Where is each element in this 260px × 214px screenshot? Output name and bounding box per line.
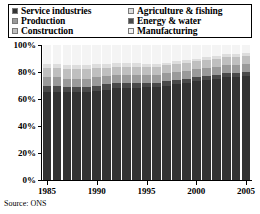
bar-segment bbox=[63, 79, 72, 87]
bar-segment bbox=[222, 45, 231, 54]
bar-segment bbox=[242, 76, 251, 180]
bar-segment bbox=[82, 69, 91, 78]
bar-segment bbox=[53, 86, 62, 93]
bar-segment bbox=[122, 75, 131, 83]
legend-swatch-energy-water bbox=[128, 18, 134, 24]
bar-segment bbox=[72, 92, 81, 180]
bar-segment bbox=[72, 45, 81, 65]
bar-segment bbox=[152, 75, 161, 83]
bar-segment bbox=[112, 88, 121, 180]
legend-label-agriculture-fishing: Agriculture & fishing bbox=[137, 6, 222, 16]
legend-label-production: Production bbox=[21, 16, 65, 26]
bar-segment bbox=[43, 86, 52, 93]
bar-segment bbox=[43, 92, 52, 180]
legend-swatch-manufacturing bbox=[128, 28, 134, 34]
x-axis-label: 2005 bbox=[237, 186, 255, 196]
legend-label-manufacturing: Manufacturing bbox=[137, 26, 197, 36]
chart-legend: Service industries Production Constructi… bbox=[8, 4, 252, 38]
bar-segment bbox=[72, 69, 81, 78]
bar-segment bbox=[92, 68, 101, 77]
bar-column bbox=[82, 45, 91, 180]
y-axis-label: 80% bbox=[18, 67, 36, 77]
bar-segment bbox=[152, 87, 161, 180]
bar-segment bbox=[53, 77, 62, 85]
bar-column bbox=[202, 45, 211, 180]
bar-segment bbox=[102, 76, 111, 84]
bar-column bbox=[242, 45, 251, 180]
bar-segment bbox=[43, 77, 52, 85]
bar-segment bbox=[182, 83, 191, 180]
source-note: Source: ONS bbox=[4, 199, 46, 208]
x-tick-mark bbox=[147, 181, 148, 185]
bar-segment bbox=[142, 75, 151, 83]
bar-segment bbox=[72, 79, 81, 87]
x-tick-mark bbox=[97, 181, 98, 185]
legend-label-construction: Construction bbox=[21, 26, 73, 36]
bar-segment bbox=[112, 45, 121, 63]
bar-segment bbox=[122, 67, 131, 75]
legend-label-service-industries: Service industries bbox=[21, 6, 91, 16]
legend-item-service-industries: Service industries bbox=[12, 6, 128, 16]
bar-segment bbox=[232, 45, 241, 54]
bar-segment bbox=[212, 67, 221, 75]
legend-column-right: Agriculture & fishing Energy & water Man… bbox=[128, 6, 248, 36]
bar-segment bbox=[102, 90, 111, 180]
bar-segment bbox=[162, 65, 171, 73]
y-axis-label: 40% bbox=[18, 121, 36, 131]
x-axis-label: 1995 bbox=[138, 186, 156, 196]
bar-column bbox=[122, 45, 131, 180]
legend-item-manufacturing: Manufacturing bbox=[128, 26, 248, 36]
bar-column bbox=[222, 45, 231, 180]
bar-segment bbox=[152, 67, 161, 75]
bar-segment bbox=[142, 87, 151, 180]
bar-column bbox=[72, 45, 81, 180]
legend-column-left: Service industries Production Constructi… bbox=[12, 6, 128, 36]
bar-segment bbox=[182, 63, 191, 71]
bar-segment bbox=[122, 88, 131, 180]
bar-column bbox=[192, 45, 201, 180]
bar-segment bbox=[82, 45, 91, 65]
legend-label-energy-water: Energy & water bbox=[137, 16, 201, 26]
bar-segment bbox=[202, 60, 211, 68]
bar-segment bbox=[172, 64, 181, 72]
bar-segment bbox=[112, 67, 121, 75]
bar-segment bbox=[202, 80, 211, 180]
bar-segment bbox=[132, 75, 141, 83]
bar-segment bbox=[142, 45, 151, 64]
bar-segment bbox=[182, 71, 191, 79]
bar-column bbox=[142, 45, 151, 180]
bar-segment bbox=[63, 45, 72, 65]
bar-column bbox=[43, 45, 52, 180]
bar-segment bbox=[43, 45, 52, 64]
y-axis-label: 100% bbox=[14, 40, 37, 50]
legend-swatch-agriculture-fishing bbox=[128, 8, 134, 14]
bar-column bbox=[92, 45, 101, 180]
bar-segment bbox=[192, 69, 201, 77]
bar-segment bbox=[142, 67, 151, 75]
bar-segment bbox=[152, 45, 161, 64]
bar-segment bbox=[222, 65, 231, 73]
bar-segment bbox=[102, 45, 111, 64]
bar-column bbox=[172, 45, 181, 180]
bar-segment bbox=[112, 75, 121, 83]
y-axis-label: 60% bbox=[18, 94, 36, 104]
x-axis-label: 2000 bbox=[187, 186, 205, 196]
bar-segment bbox=[92, 45, 101, 64]
bar-segment bbox=[212, 59, 221, 67]
bar-column bbox=[112, 45, 121, 180]
bar-column bbox=[162, 45, 171, 180]
bar-segment bbox=[162, 73, 171, 81]
legend-swatch-construction bbox=[12, 28, 18, 34]
bar-segment bbox=[192, 61, 201, 69]
bar-segment bbox=[172, 84, 181, 180]
bar-segment bbox=[202, 45, 211, 57]
bar-segment bbox=[222, 57, 231, 65]
bar-segment bbox=[162, 45, 171, 63]
x-tick-mark bbox=[47, 181, 48, 185]
bar-segment bbox=[82, 92, 91, 180]
bar-column bbox=[132, 45, 141, 180]
bar-segment bbox=[192, 45, 201, 59]
bar-segment bbox=[202, 68, 211, 76]
bar-segment bbox=[232, 65, 241, 73]
y-axis-label: 0% bbox=[23, 175, 37, 185]
